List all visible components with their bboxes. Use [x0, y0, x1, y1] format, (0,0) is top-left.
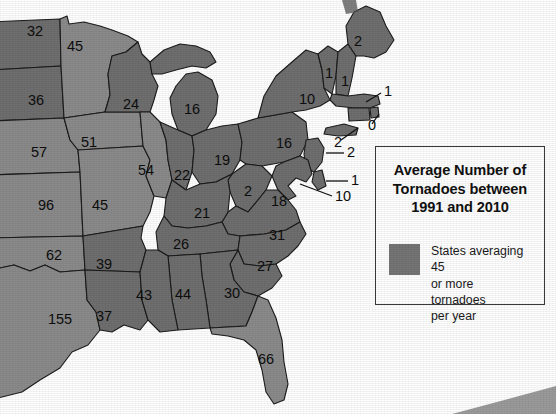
label-maine: 2: [354, 33, 362, 49]
label-south-dakota: 36: [28, 92, 44, 108]
state-texas[interactable]: [0, 262, 100, 400]
label-delaware: 1: [351, 172, 359, 188]
label-indiana: 22: [174, 167, 190, 183]
label-florida: 66: [258, 351, 274, 367]
label-north-carolina: 31: [269, 227, 285, 243]
label-mississippi: 43: [136, 287, 152, 303]
label-kansas: 96: [38, 197, 54, 213]
label-kentucky: 21: [194, 205, 210, 221]
label-tennessee: 26: [173, 236, 189, 252]
label-missouri: 45: [92, 197, 108, 213]
label-new-hampshire: 1: [341, 73, 349, 89]
legend-title-line2: Tornadoes between: [389, 180, 531, 199]
legend-description-line1: States averaging 45: [431, 243, 531, 276]
state-delaware[interactable]: [312, 170, 326, 190]
label-new-jersey: 2: [347, 144, 355, 160]
label-vermont: 1: [325, 65, 333, 81]
legend-description-line2: or more tornadoes: [431, 276, 531, 309]
label-georgia: 30: [224, 285, 240, 301]
state-michigan-upper[interactable]: [150, 44, 216, 74]
label-wisconsin: 24: [123, 96, 139, 112]
legend-description: States averaging 45 or more tornadoes pe…: [431, 243, 531, 325]
label-texas: 155: [48, 311, 72, 327]
state-connecticut[interactable]: [348, 108, 370, 121]
state-missouri[interactable]: [78, 146, 154, 236]
label-pennsylvania: 16: [276, 135, 292, 151]
map-figure: 32 45 36 24 16 2 57 51 10 1 1 96 54 22 1…: [0, 0, 556, 414]
legend-entry: States averaging 45 or more tornadoes pe…: [389, 243, 531, 325]
legend-title-line1: Average Number of: [389, 161, 531, 180]
label-massachusetts: 1: [384, 83, 392, 99]
label-alabama: 44: [175, 286, 191, 302]
label-illinois: 54: [138, 162, 154, 178]
label-arkansas: 39: [96, 256, 112, 272]
legend-description-line3: per year: [431, 308, 531, 324]
map-legend: Average Number of Tornadoes between 1991…: [375, 146, 545, 305]
label-north-dakota: 32: [27, 23, 43, 39]
legend-title-line3: 1991 and 2010: [389, 198, 531, 217]
label-iowa: 51: [81, 134, 97, 150]
label-michigan: 16: [184, 101, 200, 117]
label-new-york: 10: [299, 91, 315, 107]
label-south-carolina: 27: [257, 258, 273, 274]
label-ohio: 19: [214, 152, 230, 168]
label-minnesota: 45: [67, 38, 83, 54]
state-massachusetts[interactable]: [330, 94, 380, 108]
state-iowa[interactable]: [64, 112, 143, 150]
label-maryland: 10: [335, 188, 351, 204]
label-connecticut: 2: [334, 134, 342, 150]
label-west-virginia: 2: [244, 183, 252, 199]
legend-color-swatch: [389, 244, 420, 275]
legend-title: Average Number of Tornadoes between 1991…: [389, 161, 531, 217]
label-nebraska: 57: [31, 144, 47, 160]
label-oklahoma: 62: [46, 247, 62, 263]
top-edge-artifact: [342, 0, 358, 14]
corner-wedge-artifact: [452, 386, 556, 414]
label-rhode-island: 0: [368, 117, 376, 133]
label-louisiana: 37: [96, 308, 112, 324]
label-virginia: 18: [271, 193, 287, 209]
